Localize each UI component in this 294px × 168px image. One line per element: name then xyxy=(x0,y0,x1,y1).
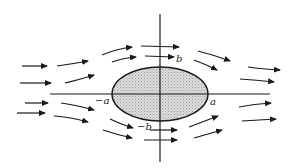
arrow-icon xyxy=(54,116,88,122)
label-b-top: b xyxy=(176,54,182,64)
arrow-icon xyxy=(57,61,88,66)
flow-diagram-svg xyxy=(0,0,294,168)
label-b-bottom: −b xyxy=(137,122,152,132)
arrow-icon xyxy=(242,119,276,121)
arrow-icon xyxy=(194,130,222,138)
arrow-icon xyxy=(240,79,274,82)
arrow-icon xyxy=(103,130,132,138)
label-a-right: a xyxy=(210,97,216,107)
arrow-icon xyxy=(61,103,94,110)
arrow-icon xyxy=(239,103,271,107)
arrow-icon xyxy=(112,57,136,62)
arrow-icon xyxy=(145,56,174,57)
arrow-icon xyxy=(198,51,230,61)
arrow-icon xyxy=(141,46,179,47)
arrow-icon xyxy=(194,60,217,70)
label-a-left: −a xyxy=(95,96,109,106)
arrow-icon xyxy=(65,75,94,83)
flow-diagram: b −b −a a xyxy=(0,0,294,168)
arrow-icon xyxy=(102,47,132,55)
arrow-icon xyxy=(110,119,133,128)
arrow-icon xyxy=(248,67,280,70)
arrow-icon xyxy=(189,116,218,127)
